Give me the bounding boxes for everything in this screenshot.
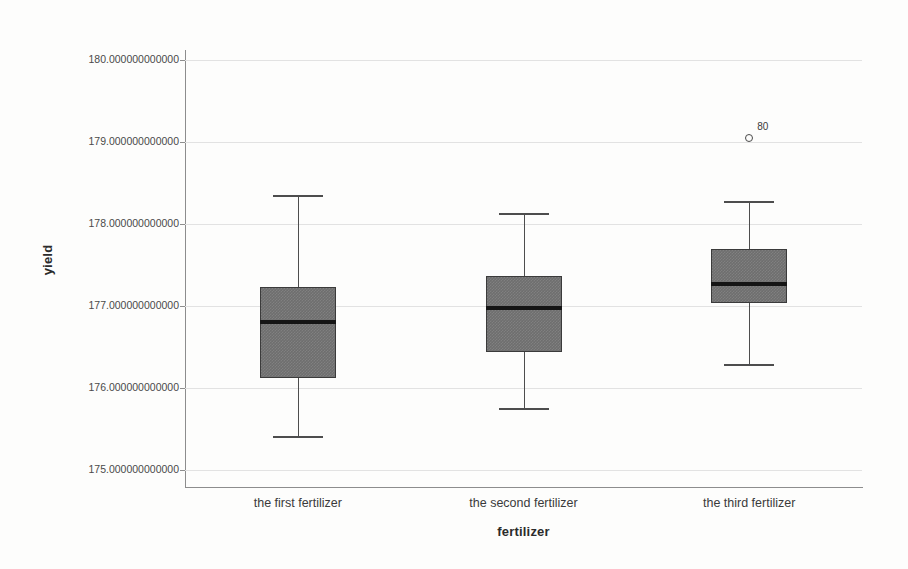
boxplot-figure: yield 175.000000000000176.00000000000017… [0, 0, 908, 569]
x-axis-tick-label: the first fertilizer [188, 496, 408, 510]
lower-whisker-stem [749, 303, 750, 365]
upper-whisker-cap [724, 201, 774, 203]
y-axis-tick-label: 176.000000000000 [9, 381, 179, 393]
outlier-point[interactable] [745, 134, 753, 142]
x-axis-tick-label: the second fertilizer [414, 496, 634, 510]
x-axis-tick-label: the third fertilizer [639, 496, 859, 510]
y-axis-tick-label: 178.000000000000 [9, 217, 179, 229]
y-axis-tick-label: 179.000000000000 [9, 135, 179, 147]
outlier-label: 80 [757, 121, 768, 132]
y-axis-tick-label: 180.000000000000 [9, 53, 179, 65]
upper-whisker-stem [749, 201, 750, 249]
plot-area: 80 [185, 50, 862, 487]
y-axis-tick-label: 175.000000000000 [9, 463, 179, 475]
boxplot-3[interactable]: 80 [185, 50, 862, 487]
x-axis-title: fertilizer [185, 524, 862, 539]
median-line [711, 282, 787, 286]
box-iqr[interactable] [711, 249, 787, 303]
lower-whisker-cap [724, 364, 774, 366]
x-axis-line [185, 487, 863, 488]
y-axis-tick-label: 177.000000000000 [9, 299, 179, 311]
